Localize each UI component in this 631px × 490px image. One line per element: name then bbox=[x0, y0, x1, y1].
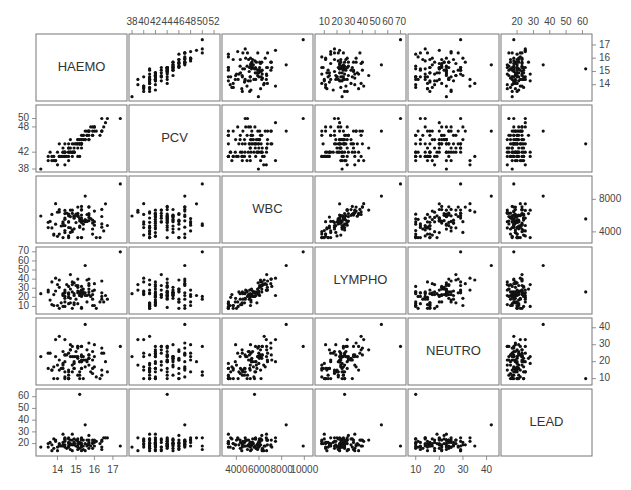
panel-frame bbox=[36, 318, 127, 385]
tick-label: 4000 bbox=[599, 226, 622, 237]
tick-label: 50 bbox=[18, 112, 30, 123]
tick-label: 40 bbox=[138, 16, 150, 27]
tick-label: 50 bbox=[370, 16, 382, 27]
panel-frame bbox=[408, 105, 499, 172]
tick-label: 50 bbox=[561, 16, 573, 27]
variable-label: PCV bbox=[161, 130, 188, 145]
variable-label: NEUTRO bbox=[426, 343, 481, 358]
tick-label: 30 bbox=[528, 16, 540, 27]
diagonal-panel-lead: LEAD bbox=[501, 389, 592, 456]
scatter-panel-lympho-vs-wbc bbox=[222, 247, 313, 314]
scatter-panel-pcv-vs-lympho bbox=[315, 105, 406, 172]
tick-label: 10 bbox=[599, 372, 611, 383]
panel-frame bbox=[222, 318, 313, 385]
tick-label: 42 bbox=[18, 146, 30, 157]
tick-label: 60 bbox=[18, 390, 30, 401]
scatter-panel-lead-vs-pcv bbox=[129, 389, 220, 456]
axes: 1415161738404244464850524000600080001000… bbox=[18, 16, 622, 475]
tick-label: 50 bbox=[18, 402, 30, 413]
tick-label: 15 bbox=[70, 464, 82, 475]
scatter-panel-lead-vs-neutro bbox=[408, 389, 499, 456]
tick-label: 30 bbox=[18, 426, 30, 437]
scatter-panel-wbc-vs-haemo bbox=[36, 176, 127, 243]
tick-label: 20 bbox=[599, 355, 611, 366]
tick-label: 20 bbox=[512, 16, 524, 27]
scatter-panel-wbc-vs-lead bbox=[501, 176, 592, 243]
tick-label: 40 bbox=[18, 414, 30, 425]
tick-label: 70 bbox=[395, 16, 407, 27]
panel-frame bbox=[315, 34, 406, 101]
scatter-panel-wbc-vs-lympho bbox=[315, 176, 406, 243]
scatter-panel-haemo-vs-lead bbox=[501, 34, 592, 101]
tick-label: 48 bbox=[185, 16, 197, 27]
scatter-panel-pcv-vs-haemo bbox=[36, 105, 127, 172]
tick-label: 40 bbox=[481, 464, 493, 475]
scatter-panel-wbc-vs-neutro bbox=[408, 176, 499, 243]
panel-frame bbox=[129, 247, 220, 314]
scatter-panel-lead-vs-haemo bbox=[36, 389, 127, 456]
diagonal-panel-wbc: WBC bbox=[222, 176, 313, 243]
tick-label: 60 bbox=[577, 16, 589, 27]
tick-label: 10000 bbox=[290, 464, 318, 475]
scatter-panel-pcv-vs-wbc bbox=[222, 105, 313, 172]
scatter-panel-haemo-vs-neutro bbox=[408, 34, 499, 101]
scatter-panel-haemo-vs-lympho bbox=[315, 34, 406, 101]
variable-label: WBC bbox=[252, 201, 282, 216]
diagonal-panel-pcv: PCV bbox=[129, 105, 220, 172]
tick-label: 38 bbox=[18, 163, 30, 174]
tick-label: 17 bbox=[107, 464, 119, 475]
tick-label: 46 bbox=[173, 16, 185, 27]
tick-label: 50 bbox=[197, 16, 209, 27]
diagonal-panel-haemo: HAEMO bbox=[36, 34, 127, 101]
diagonal-panel-lympho: LYMPHO bbox=[315, 247, 406, 314]
diagonal-panel-neutro: NEUTRO bbox=[408, 318, 499, 385]
scatter-panel-lead-vs-lympho bbox=[315, 389, 406, 456]
tick-label: 30 bbox=[599, 338, 611, 349]
tick-label: 14 bbox=[52, 464, 64, 475]
scatter-panel-lympho-vs-neutro bbox=[408, 247, 499, 314]
scatter-panel-neutro-vs-lympho bbox=[315, 318, 406, 385]
scatter-panel-lympho-vs-haemo bbox=[36, 247, 127, 314]
tick-label: 15 bbox=[599, 65, 611, 76]
variable-label: HAEMO bbox=[58, 59, 106, 74]
tick-label: 40 bbox=[599, 321, 611, 332]
tick-label: 20 bbox=[18, 437, 30, 448]
variable-label: LYMPHO bbox=[334, 272, 388, 287]
tick-label: 38 bbox=[126, 16, 138, 27]
panel-frame bbox=[408, 34, 499, 101]
scatter-panel-lead-vs-wbc bbox=[222, 389, 313, 456]
panel-frame bbox=[408, 176, 499, 243]
tick-label: 44 bbox=[162, 16, 174, 27]
panel-frame bbox=[36, 247, 127, 314]
tick-label: 16 bbox=[599, 52, 611, 63]
tick-label: 17 bbox=[599, 39, 611, 50]
tick-label: 60 bbox=[382, 16, 394, 27]
tick-label: 8000 bbox=[599, 193, 622, 204]
panels: HAEMOPCVWBCLYMPHONEUTROLEAD bbox=[36, 34, 592, 456]
scatter-panel-wbc-vs-pcv bbox=[129, 176, 220, 243]
tick-label: 20 bbox=[434, 464, 446, 475]
tick-label: 10 bbox=[410, 464, 422, 475]
scatter-panel-haemo-vs-wbc bbox=[222, 34, 313, 101]
scatter-panel-neutro-vs-wbc bbox=[222, 318, 313, 385]
tick-label: 40 bbox=[357, 16, 369, 27]
tick-label: 4000 bbox=[225, 464, 248, 475]
scatter-panel-lympho-vs-lead bbox=[501, 247, 592, 314]
scatter-panel-neutro-vs-haemo bbox=[36, 318, 127, 385]
tick-label: 10 bbox=[319, 16, 331, 27]
variable-label: LEAD bbox=[530, 414, 564, 429]
scatter-panel-haemo-vs-pcv bbox=[129, 34, 220, 101]
tick-label: 40 bbox=[544, 16, 556, 27]
scatter-panel-pcv-vs-lead bbox=[501, 105, 592, 172]
scatter-panel-lympho-vs-pcv bbox=[129, 247, 220, 314]
tick-label: 42 bbox=[150, 16, 162, 27]
tick-label: 30 bbox=[344, 16, 356, 27]
scatter-panel-neutro-vs-lead bbox=[501, 318, 592, 385]
tick-label: 52 bbox=[209, 16, 221, 27]
tick-label: 20 bbox=[331, 16, 343, 27]
scatterplot-matrix: HAEMOPCVWBCLYMPHONEUTROLEAD 141516173840… bbox=[0, 0, 631, 490]
panel-frame bbox=[315, 105, 406, 172]
tick-label: 70 bbox=[18, 245, 30, 256]
scatter-panel-pcv-vs-neutro bbox=[408, 105, 499, 172]
tick-label: 16 bbox=[89, 464, 101, 475]
